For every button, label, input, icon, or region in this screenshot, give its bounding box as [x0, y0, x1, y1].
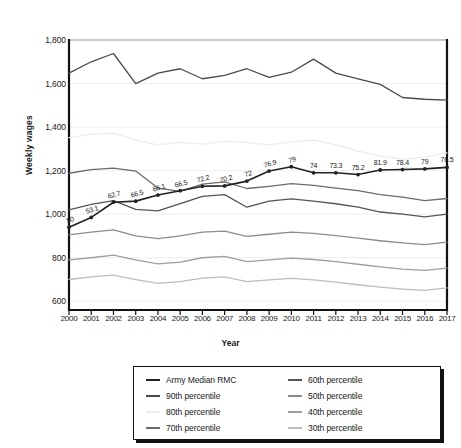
legend-item[interactable]: Army Median RMC: [146, 375, 288, 385]
data-point-label: 73.3: [329, 162, 342, 169]
data-point-label: 74: [310, 162, 317, 169]
legend-label: 90th percentile: [166, 391, 220, 401]
legend-item[interactable]: 70th percentile: [146, 423, 288, 433]
data-point-label: 78.4: [396, 159, 409, 166]
x-tick-label: 2017: [433, 314, 461, 323]
legend-item[interactable]: 30th percentile: [288, 423, 430, 433]
legend-label: 60th percentile: [308, 375, 362, 385]
legend-label: 50th percentile: [308, 391, 362, 401]
legend-swatch-icon: [146, 427, 160, 429]
legend-swatch-icon: [146, 379, 160, 381]
data-point-label: 81.9: [374, 159, 387, 166]
legend-swatch-icon: [146, 395, 160, 397]
legend-swatch-icon: [288, 411, 302, 413]
legend-item[interactable]: 80th percentile: [146, 407, 288, 417]
legend-item[interactable]: 60th percentile: [288, 375, 430, 385]
legend-item[interactable]: 50th percentile: [288, 391, 430, 401]
legend-swatch-icon: [146, 411, 160, 413]
data-point-label: 75.2: [352, 164, 365, 171]
legend-item[interactable]: 90th percentile: [146, 391, 288, 401]
legend-swatch-icon: [288, 427, 302, 429]
legend-label: 30th percentile: [308, 423, 362, 433]
chart-legend: Army Median RMC60th percentile90th perce…: [133, 366, 441, 440]
legend-swatch-icon: [288, 379, 302, 381]
legend-item[interactable]: 40th percentile: [288, 407, 430, 417]
legend-label: 80th percentile: [166, 407, 220, 417]
x-axis-title: Year: [0, 338, 461, 348]
chart-container: Weekly wages 6008001,0001,2001,4001,6001…: [0, 0, 461, 448]
legend-label: Army Median RMC: [166, 375, 236, 385]
data-point-label: 76.5: [441, 156, 454, 163]
legend-label: 40th percentile: [308, 407, 362, 417]
data-point-label: 79: [421, 158, 428, 165]
legend-swatch-icon: [288, 395, 302, 397]
legend-label: 70th percentile: [166, 423, 220, 433]
